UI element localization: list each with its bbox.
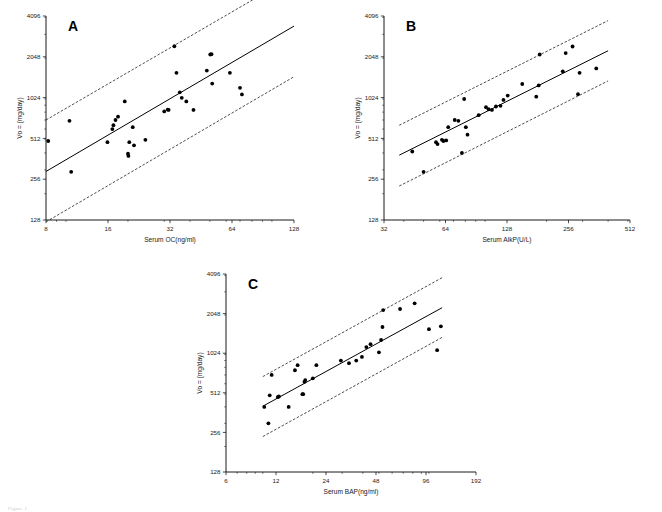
x-tick-label: 512: [625, 225, 636, 232]
x-tick-label: 32: [381, 225, 388, 232]
data-point: [167, 108, 171, 112]
y-tick-label: 128: [210, 468, 221, 475]
data-point: [184, 99, 188, 103]
data-point: [110, 127, 114, 131]
data-point: [446, 125, 450, 129]
y-tick-label: 1024: [207, 349, 221, 356]
data-point: [502, 98, 506, 102]
data-point: [576, 92, 580, 96]
data-point: [436, 142, 440, 146]
y-tick-label: 256: [30, 175, 41, 182]
confidence-band-lower: [399, 81, 608, 186]
data-point: [296, 363, 300, 367]
data-point: [287, 405, 291, 409]
data-point: [379, 338, 383, 342]
data-point: [68, 119, 72, 123]
y-tick-label: 512: [210, 389, 221, 396]
data-point: [131, 125, 135, 129]
data-point: [69, 170, 73, 174]
data-point: [462, 97, 466, 101]
data-point: [427, 327, 431, 331]
data-point: [180, 96, 184, 100]
data-point: [143, 138, 147, 142]
scatter-plot-b: 1282565121024204840963264128256512Serum …: [338, 0, 662, 258]
y-axis-title: Vo = (mg/day): [16, 97, 24, 138]
data-point: [106, 140, 110, 144]
y-tick-label: 256: [368, 175, 379, 182]
data-point: [506, 94, 510, 98]
data-point: [123, 99, 127, 103]
y-tick-label: 2048: [27, 53, 41, 60]
data-point: [477, 113, 481, 117]
data-point: [354, 359, 358, 363]
data-point: [303, 378, 307, 382]
data-point: [490, 108, 494, 112]
data-point: [456, 119, 460, 123]
data-point: [369, 342, 373, 346]
data-point: [228, 71, 232, 75]
x-tick-label: 6: [224, 477, 228, 484]
y-tick-label: 4096: [365, 12, 379, 19]
regression-line: [399, 51, 608, 155]
data-point: [494, 105, 498, 109]
x-tick-label: 64: [229, 225, 236, 232]
data-point: [270, 373, 274, 377]
x-tick-label: 64: [442, 225, 449, 232]
data-point: [460, 151, 464, 155]
data-point: [46, 139, 50, 143]
data-point: [314, 363, 318, 367]
x-tick-label: 12: [273, 477, 280, 484]
panel-c: 128256512102420484096612244896192Serum B…: [178, 256, 512, 506]
data-point: [398, 307, 402, 311]
data-point: [114, 118, 118, 122]
data-point: [116, 115, 120, 119]
x-tick-label: 256: [563, 225, 574, 232]
x-axis-title: Serum OC(ng/ml): [144, 236, 196, 244]
y-axis-title: Vo = (mg/day): [196, 352, 204, 393]
y-tick-label: 4096: [207, 270, 221, 277]
data-point: [311, 376, 315, 380]
data-point: [268, 393, 272, 397]
data-point: [205, 69, 209, 73]
data-point: [301, 392, 305, 396]
y-tick-label: 512: [368, 135, 379, 142]
data-point: [210, 52, 214, 56]
x-tick-label: 24: [323, 477, 330, 484]
y-tick-label: 256: [210, 429, 221, 436]
y-tick-label: 128: [30, 216, 41, 223]
y-tick-label: 1024: [27, 94, 41, 101]
data-point: [381, 308, 385, 312]
data-point: [537, 83, 541, 87]
x-axis-title: Serum BAP(ng/ml): [324, 488, 379, 496]
x-tick-label: 16: [105, 225, 112, 232]
y-axis-title: Vo = (mg/day): [354, 97, 362, 138]
data-point: [347, 361, 351, 365]
data-point: [538, 53, 542, 57]
data-point: [266, 421, 270, 425]
data-point: [178, 90, 182, 94]
x-tick-label: 96: [423, 477, 430, 484]
y-tick-label: 4096: [27, 12, 41, 19]
data-point: [360, 355, 364, 359]
figure-root: 1282565121024204840968163264128Serum OC(…: [0, 0, 662, 512]
data-point: [364, 345, 368, 349]
data-point: [112, 123, 116, 127]
data-point: [127, 154, 131, 158]
confidence-band-upper: [263, 278, 442, 377]
data-point: [172, 44, 176, 48]
data-point: [487, 107, 491, 111]
data-point: [293, 368, 297, 372]
data-point: [238, 86, 242, 90]
y-tick-label: 2048: [365, 53, 379, 60]
data-point: [192, 108, 196, 112]
y-tick-label: 2048: [207, 310, 221, 317]
data-point: [578, 71, 582, 75]
data-point: [464, 125, 468, 129]
panel-letter: A: [68, 18, 78, 34]
data-point: [381, 325, 385, 329]
data-point: [339, 359, 343, 363]
y-tick-label: 128: [368, 216, 379, 223]
scatter-plot-a: 1282565121024204840968163264128Serum OC(…: [0, 0, 340, 258]
data-point: [439, 324, 443, 328]
y-tick-label: 1024: [365, 94, 379, 101]
